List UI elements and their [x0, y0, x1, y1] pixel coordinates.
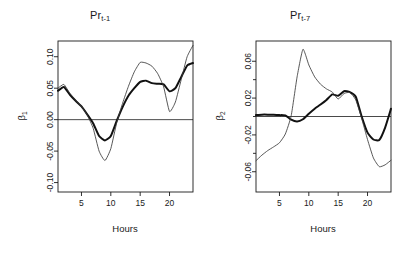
x-axis-tick-label: 15: [333, 198, 343, 208]
series-thick-curve: [58, 63, 193, 140]
y-axis-tick-label: -0.06: [243, 162, 253, 182]
y-axis-tick-label: 0.02: [243, 90, 253, 107]
panel-right-ylabel: β2: [214, 111, 226, 120]
y-axis-tick-label: 0.10: [45, 48, 55, 65]
x-axis-tick-label: 20: [363, 198, 373, 208]
x-axis-tick-label: 5: [277, 198, 282, 208]
figure-two-panel-line-charts: Prt-1 -0.10-0.050.000.050.105101520 Hour…: [0, 0, 401, 253]
svg-text:0.02: 0.02: [243, 90, 253, 107]
y-axis-tick-label: -0.05: [45, 141, 55, 161]
plot-frame: [58, 41, 193, 192]
series-thin-curve: [256, 49, 391, 167]
panel-left-ylabel: β1: [16, 111, 28, 120]
svg-text:-0.06: -0.06: [243, 162, 253, 182]
svg-text:0.05: 0.05: [45, 80, 55, 97]
series-thick-curve: [256, 91, 391, 140]
y-axis-tick-label: 0.00: [45, 111, 55, 128]
x-axis-tick-label: 15: [135, 198, 145, 208]
svg-text:0.06: 0.06: [243, 53, 253, 70]
x-axis-tick-label: 10: [304, 198, 314, 208]
x-axis-tick-label: 10: [106, 198, 116, 208]
panel-left-plot: -0.10-0.050.000.050.105101520 Hours β1: [0, 0, 200, 253]
panel-left: Prt-1 -0.10-0.050.000.050.105101520 Hour…: [0, 0, 200, 253]
panel-right-xlabel: Hours: [310, 223, 336, 234]
y-axis-tick-label: -0.02: [243, 125, 253, 145]
svg-text:-0.02: -0.02: [243, 125, 253, 145]
x-axis-tick-label: 5: [79, 198, 84, 208]
y-axis-tick-label: 0.06: [243, 53, 253, 70]
svg-text:β2: β2: [214, 111, 226, 120]
y-axis-tick-label: 0.05: [45, 80, 55, 97]
svg-text:0.10: 0.10: [45, 48, 55, 65]
svg-text:β1: β1: [16, 111, 28, 120]
svg-text:0.00: 0.00: [45, 111, 55, 128]
svg-text:-0.05: -0.05: [45, 141, 55, 161]
y-axis-tick-label: -0.10: [45, 173, 55, 193]
panel-right: Prt-7 -0.06-0.020.020.065101520 Hours β2: [200, 0, 400, 253]
panel-left-xlabel: Hours: [112, 223, 138, 234]
panel-right-plot: -0.06-0.020.020.065101520 Hours β2: [200, 0, 400, 253]
svg-text:-0.10: -0.10: [45, 173, 55, 193]
x-axis-tick-label: 20: [165, 198, 175, 208]
